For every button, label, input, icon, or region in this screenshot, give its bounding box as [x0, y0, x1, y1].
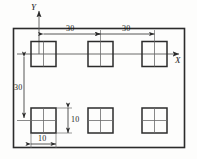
square-bottom-right — [142, 108, 167, 133]
dim-label-pitch-horizontal-2: 30 — [122, 25, 130, 33]
dim-vertical-10 — [56, 108, 72, 133]
diagram-canvas: Y X 30 30 30 10 10 — [0, 0, 197, 159]
dim-label-pitch-horizontal-1: 30 — [66, 25, 74, 33]
x-axis-label: X — [175, 56, 181, 65]
dim-label-pitch-vertical: 30 — [14, 84, 22, 92]
square-bottom-center — [88, 108, 113, 133]
square-bottom-left — [31, 108, 56, 133]
y-axis-label: Y — [31, 3, 36, 12]
diagram-vector-layer — [0, 0, 197, 159]
dim-label-square-width: 10 — [38, 135, 46, 143]
dim-label-square-height: 10 — [71, 116, 79, 124]
